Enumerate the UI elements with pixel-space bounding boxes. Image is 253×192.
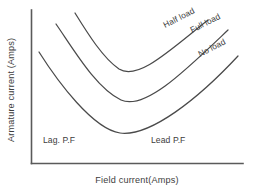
curve-full-load <box>56 24 228 102</box>
curve-half-load <box>75 13 208 72</box>
curve-no-load <box>39 52 238 133</box>
lagging-pf-label: Lag. P.F <box>43 135 75 145</box>
curve-label-no-load: No load <box>196 36 227 58</box>
plot-area: Armature current (Amps) Field current(Am… <box>0 0 253 192</box>
leading-pf-label: Lead P.F <box>151 135 185 145</box>
v-curves-figure: Armature current (Amps) Field current(Am… <box>0 0 253 192</box>
y-axis-label: Armature current (Amps) <box>6 38 16 142</box>
x-axis-label: Field current(Amps) <box>95 175 178 185</box>
